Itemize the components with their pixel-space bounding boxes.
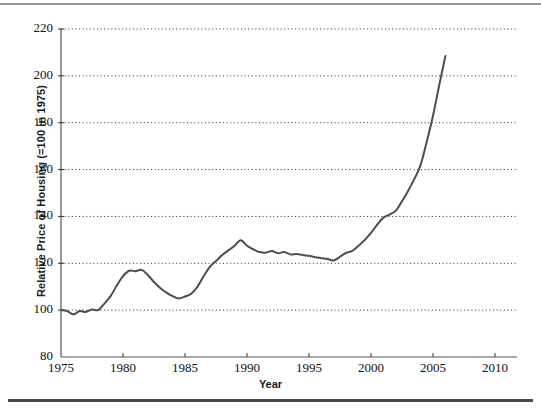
x-tick-label-1985: 1985 [160,360,210,376]
axis-spines-group [61,29,517,357]
x-tick-label-2005: 2005 [408,360,458,376]
page-bottom-rule [8,399,533,402]
figure-container: 80100120140160180200220 1975198019851990… [0,0,541,416]
x-axis-title: Year [0,378,541,390]
y-axis-title: Relative Price of Housing (=100 in 1975) [35,76,47,306]
x-tick-label-1980: 1980 [98,360,148,376]
x-tick-label-1990: 1990 [222,360,272,376]
x-tick-label-1975: 1975 [36,360,86,376]
housing-price-line-chart [0,0,541,400]
x-tick-label-2000: 2000 [346,360,396,376]
x-tick-label-2010: 2010 [470,360,520,376]
gridlines-group [61,29,517,310]
chart-plot-area: 80100120140160180200220 1975198019851990… [0,0,541,400]
data-series-line [61,56,445,314]
axis-ticks-group [58,29,495,357]
y-tick-label-220: 220 [19,20,53,36]
x-tick-label-1995: 1995 [284,360,334,376]
